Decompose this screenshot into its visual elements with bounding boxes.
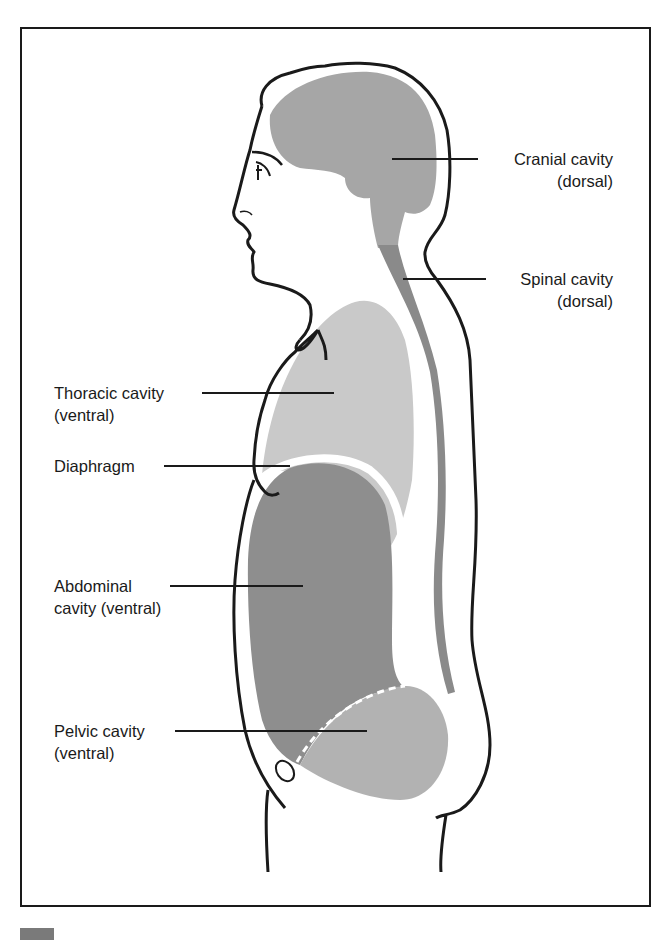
label-cranial-cavity: Cranial cavity (dorsal) [514, 148, 613, 192]
label-pelvic-line1: Pelvic cavity [54, 720, 145, 742]
label-spinal-cavity: Spinal cavity (dorsal) [520, 268, 613, 312]
eye [256, 162, 270, 180]
label-abdominal-cavity: Abdominal cavity (ventral) [54, 575, 161, 619]
label-thoracic-line2: (ventral) [54, 404, 164, 426]
label-cranial-line2: (dorsal) [514, 170, 613, 192]
nostril [240, 211, 252, 215]
label-thoracic-line1: Thoracic cavity [54, 382, 164, 404]
label-pelvic-line2: (ventral) [54, 742, 145, 764]
label-cranial-line1: Cranial cavity [514, 148, 613, 170]
gray-swatch-marker [20, 928, 54, 940]
label-diaphragm-line1: Diaphragm [54, 455, 135, 477]
label-spinal-line1: Spinal cavity [520, 268, 613, 290]
label-thoracic-cavity: Thoracic cavity (ventral) [54, 382, 164, 426]
label-abdominal-line1: Abdominal [54, 575, 161, 597]
label-spinal-line2: (dorsal) [520, 290, 613, 312]
label-diaphragm: Diaphragm [54, 455, 135, 477]
label-pelvic-cavity: Pelvic cavity (ventral) [54, 720, 145, 764]
label-abdominal-line2: cavity (ventral) [54, 597, 161, 619]
